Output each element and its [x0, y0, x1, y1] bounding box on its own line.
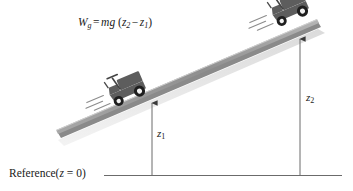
- z2-label: z2: [306, 92, 314, 105]
- z1-subscript: 1: [161, 132, 165, 141]
- equation-equals: =: [92, 16, 102, 28]
- diagram-canvas: Wg=mg (z2−z1) z1 z2 Reference(z = 0): [0, 0, 353, 191]
- equation-lhs-subscript: g: [88, 21, 92, 30]
- lower-vehicle-exhaust: [104, 82, 108, 89]
- equation-lhs-symbol: W: [78, 16, 88, 28]
- ramp-shadow: [58, 29, 325, 146]
- upper-vehicle-motion-lines: [247, 14, 273, 33]
- reference-caption: Reference(z = 0): [9, 168, 86, 180]
- upper-vehicle-exhaust: [267, 2, 271, 9]
- reference-paren-close: ): [82, 167, 86, 179]
- reference-word: Reference: [9, 167, 56, 179]
- ramp-side-face: [58, 22, 321, 138]
- equation-close-paren: ): [148, 16, 152, 28]
- equation-minus: −: [130, 16, 140, 28]
- z1-label: z1: [157, 128, 165, 141]
- physics-incline-illustration: [0, 0, 353, 191]
- ramp-top-surface: [56, 19, 319, 134]
- inclined-ramp: [56, 19, 325, 146]
- reference-equals: =: [67, 167, 74, 179]
- work-equation: Wg=mg (z2−z1): [78, 17, 152, 30]
- ramp-edge-highlight: [56, 20, 317, 131]
- equation-mg-term: mg: [101, 16, 115, 28]
- z2-subscript: 2: [310, 96, 314, 105]
- reference-variable: z: [59, 167, 63, 179]
